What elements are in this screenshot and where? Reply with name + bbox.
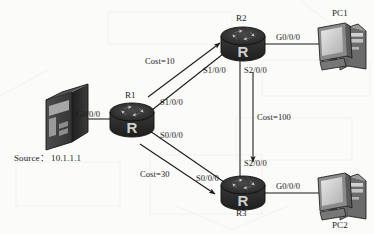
iface-label-r3-r1: S0/0/0 bbox=[196, 174, 219, 183]
iface-label-r2-pc1: G0/0/0 bbox=[276, 33, 300, 42]
node-label-pc2: PC2 bbox=[332, 221, 348, 230]
iface-label-r3-r2: S2/0/0 bbox=[244, 159, 267, 168]
iface-label-r1-r2: S1/0/0 bbox=[160, 98, 183, 107]
svg-text:R: R bbox=[238, 192, 249, 209]
cost-label-r1-r3: Cost=30 bbox=[140, 170, 170, 179]
iface-label-server-r1: G0/0/0 bbox=[76, 110, 100, 119]
cost-label-r1-r2: Cost=10 bbox=[145, 57, 175, 66]
router-r1-icon: R bbox=[110, 103, 154, 137]
node-label-pc1: PC1 bbox=[332, 9, 348, 18]
node-label-r2: R2 bbox=[236, 14, 247, 23]
router-r2-icon: R bbox=[221, 27, 265, 61]
pc1-icon bbox=[318, 23, 366, 70]
iface-label-r1-r3: S0/0/0 bbox=[160, 131, 183, 140]
svg-text:R: R bbox=[127, 119, 138, 136]
node-label-r1: R1 bbox=[125, 91, 136, 100]
iface-label-r2-r1: S1/0/0 bbox=[203, 66, 226, 75]
node-label-r3: R3 bbox=[236, 209, 247, 218]
source-address-label: Source： 10.1.1.1 bbox=[14, 154, 81, 163]
network-diagram-canvas: R R bbox=[0, 0, 374, 234]
router-r3-icon: R bbox=[221, 176, 265, 210]
iface-label-r2-r3: S2/0/0 bbox=[244, 66, 267, 75]
diagram-vector-layer: R R bbox=[0, 0, 374, 234]
pc2-icon bbox=[318, 173, 366, 220]
cost-label-r2-r3: Cost=100 bbox=[257, 113, 291, 122]
svg-text:R: R bbox=[238, 43, 249, 60]
iface-label-r3-pc2: G0/0/0 bbox=[276, 182, 300, 191]
